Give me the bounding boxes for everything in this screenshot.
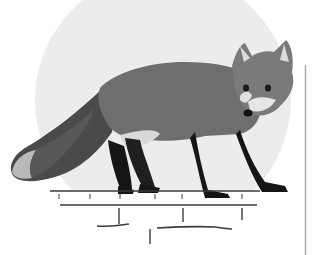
fox-nose <box>244 110 253 117</box>
fox-illustration: red fox standing in profile, head turned… <box>0 0 313 255</box>
fox-eye-right <box>265 84 271 91</box>
fox-eye-left <box>243 84 249 91</box>
